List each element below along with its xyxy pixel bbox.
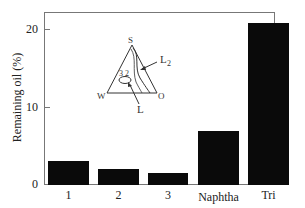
svg-text:L: L xyxy=(137,103,144,115)
svg-text:L: L xyxy=(160,53,167,65)
svg-text:2: 2 xyxy=(167,59,171,68)
svg-text:3 2: 3 2 xyxy=(119,69,129,78)
svg-text:W: W xyxy=(97,91,106,101)
svg-text:S: S xyxy=(128,35,133,45)
svg-text:O: O xyxy=(158,91,165,101)
ternary-inset-diagram: S W O L 2 L 3 2 xyxy=(0,0,305,208)
